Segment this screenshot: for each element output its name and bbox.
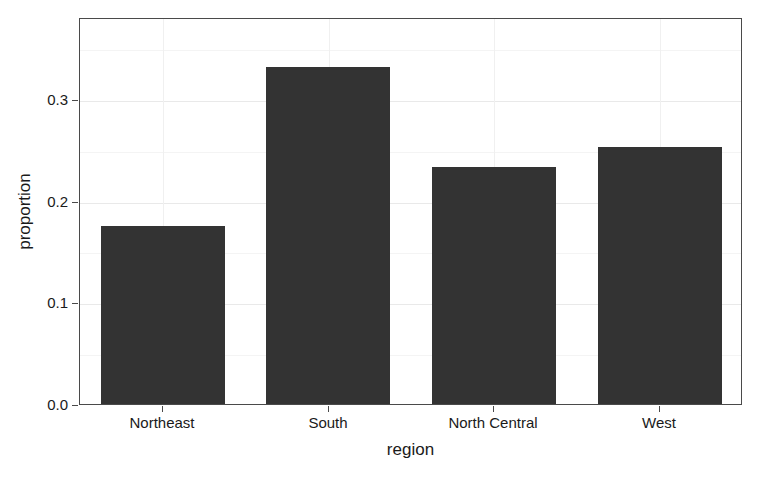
bar-northeast: [101, 226, 225, 405]
y-tick-label: 0.0: [24, 397, 68, 413]
x-tick-mark: [659, 406, 660, 412]
y-tick-label: 0.1: [24, 295, 68, 311]
x-tick-label: North Central: [448, 414, 537, 432]
y-tick-mark: [72, 100, 78, 101]
bar-west: [598, 147, 722, 405]
y-tick-label: 0.3: [24, 92, 68, 108]
y-tick-mark: [72, 303, 78, 304]
x-tick-label: Northeast: [129, 414, 194, 432]
x-tick-label: South: [308, 414, 347, 432]
bar-north-central: [432, 167, 556, 405]
y-tick-mark: [72, 202, 78, 203]
plot-panel: [79, 18, 742, 405]
bar-chart: proportion 0.00.10.20.3 NortheastSouthNo…: [0, 0, 771, 477]
y-tick-label: 0.2: [24, 194, 68, 210]
x-axis-title: region: [79, 440, 742, 460]
x-tick-mark: [162, 406, 163, 412]
x-tick-mark: [493, 406, 494, 412]
x-tick-label: West: [642, 414, 676, 432]
x-tick-mark: [328, 406, 329, 412]
grid-line-minor: [80, 50, 741, 51]
grid-line-major: [80, 101, 741, 102]
y-tick-mark: [72, 405, 78, 406]
bar-south: [266, 67, 390, 405]
y-axis-title: proportion: [14, 18, 36, 405]
